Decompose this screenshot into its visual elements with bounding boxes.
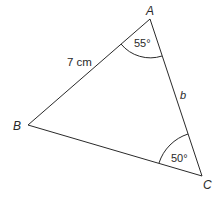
side-label-ac: b xyxy=(180,89,186,101)
triangle-canvas: A B C 7 cm b 55° 50° xyxy=(0,0,223,200)
side-label-ab: 7 cm xyxy=(67,56,92,68)
vertex-label-b: B xyxy=(13,119,21,133)
vertex-label-c: C xyxy=(203,178,212,192)
vertex-label-a: A xyxy=(145,4,154,18)
side-bc xyxy=(28,125,202,176)
side-ab xyxy=(28,19,150,125)
angle-label-c: 50° xyxy=(171,152,188,164)
triangle-diagram: A B C 7 cm b 55° 50° xyxy=(0,0,223,200)
angle-label-a: 55° xyxy=(134,37,151,49)
